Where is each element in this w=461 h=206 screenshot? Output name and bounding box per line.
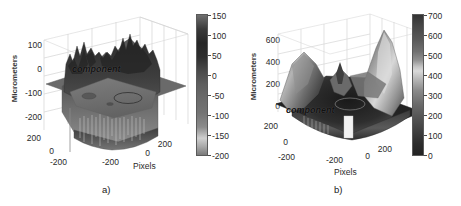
- component-blob-a: [82, 93, 96, 99]
- colorbar-dash-a-6: [208, 135, 211, 136]
- surface-geometry-a: [44, 17, 188, 152]
- colorbar-dash-b-6: [424, 135, 427, 136]
- colorbar-dash-b-1: [424, 35, 427, 36]
- colorbar-tick-b-6: 100: [428, 131, 442, 141]
- z-tick-a-1: 0: [20, 64, 42, 74]
- colorbar-tick-b-2: 500: [428, 51, 442, 61]
- x-axis-label-b: Pixels: [334, 167, 357, 177]
- colorbar-dash-a-0: [208, 15, 211, 16]
- caption-a: a): [102, 184, 110, 195]
- colorbar-tick-a-5: -100: [212, 111, 229, 121]
- colorbar-tick-b-7: 0: [428, 151, 433, 161]
- colorbar-tick-b-0: 700: [428, 11, 442, 21]
- x-axis-label-a: Pixels: [133, 161, 156, 171]
- colorbar-tick-b-1: 600: [428, 31, 442, 41]
- z-tick-a-2: -100: [15, 88, 42, 98]
- colorbar-tick-a-3: 0: [212, 71, 217, 81]
- surface-svg-b: [274, 12, 424, 158]
- panel-b: Micrometers 600 400 200 0 200 0 -200 -20…: [230, 0, 460, 206]
- colorbar-dash-b-5: [424, 115, 427, 116]
- colorbar-gradient-b: [413, 15, 423, 155]
- colorbar-tick-a-7: -200: [212, 151, 229, 161]
- figure-container: Micrometers 100 0 -100 -200 200 0 -200 -…: [0, 0, 461, 206]
- colorbar-dash-b-0: [424, 15, 427, 16]
- colorbar-dash-b-4: [424, 95, 427, 96]
- component-annotation-b: component: [286, 105, 335, 115]
- colorbar-dash-b-3: [424, 75, 427, 76]
- panel-a: Micrometers 100 0 -100 -200 200 0 -200 -…: [0, 0, 230, 206]
- component-annotation-a: component: [72, 64, 121, 74]
- surface-plot-a: [40, 12, 192, 152]
- colorbar-tick-a-2: 50: [212, 51, 221, 61]
- surface-plot-b: [274, 12, 424, 158]
- colorbar-tick-a-0: 150: [212, 11, 226, 21]
- colorbar-gradient-a: [197, 15, 207, 155]
- z-tick-a-0: 100: [20, 40, 42, 50]
- z-axis-label-b: Micrometers: [249, 46, 258, 108]
- colorbar-dash-a-1: [208, 35, 211, 36]
- colorbar-dash-a-7: [208, 155, 211, 156]
- y-tick-a-2: -200: [40, 157, 67, 167]
- y-tick-a-0: 200: [19, 133, 41, 143]
- colorbar-dash-a-4: [208, 95, 211, 96]
- colorbar-tick-b-3: 400: [428, 71, 442, 81]
- z-axis-label-a: Micrometers: [10, 48, 19, 110]
- colorbar-b: [412, 14, 424, 156]
- caption-b: b): [334, 184, 342, 195]
- colorbar-tick-a-4: -50: [212, 91, 224, 101]
- colorbar-dash-a-2: [208, 55, 211, 56]
- colorbar-dash-a-3: [208, 75, 211, 76]
- colorbar-dash-b-2: [424, 55, 427, 56]
- colorbar-tick-b-5: 200: [428, 111, 442, 121]
- colorbar-tick-a-1: 100: [212, 31, 226, 41]
- colorbar-tick-a-6: -150: [212, 131, 229, 141]
- notch-b: [344, 116, 353, 138]
- z-tick-a-3: -200: [15, 112, 42, 122]
- colorbar-a: [196, 14, 208, 156]
- colorbar-dash-b-7: [424, 155, 427, 156]
- x-tick-a-0: -200: [92, 157, 119, 167]
- surface-svg-a: [40, 12, 192, 152]
- colorbar-dash-a-5: [208, 115, 211, 116]
- colorbar-tick-b-4: 300: [428, 91, 442, 101]
- component-dot-a: [107, 102, 114, 106]
- surface-geometry-b: [276, 14, 422, 140]
